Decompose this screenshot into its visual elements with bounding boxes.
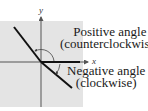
y-axis-label: y xyxy=(39,5,43,15)
terminal-side-positive xyxy=(14,27,41,62)
positive-angle-label: Positive angle (counterclockwise) xyxy=(60,26,148,50)
negative-angle-arc xyxy=(56,64,60,74)
angle-diagram xyxy=(0,0,148,111)
negative-angle-direction: (clockwise) xyxy=(67,77,145,89)
negative-angle-label: Negative angle (clockwise) xyxy=(67,65,145,89)
positive-angle-direction: (counterclockwise) xyxy=(60,38,148,50)
